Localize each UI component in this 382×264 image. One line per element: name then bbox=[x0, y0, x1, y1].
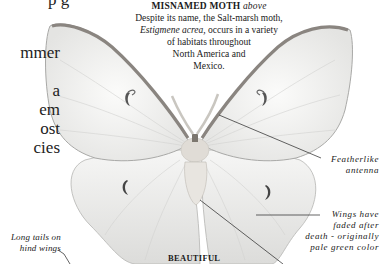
beautiful-heading: BEAUTIFUL bbox=[168, 253, 220, 263]
misnamed-moth-caption: MISNAMED MOTH above Despite its name, th… bbox=[124, 0, 294, 72]
caption-line: North America and bbox=[124, 48, 294, 60]
body-text-line: em bbox=[39, 100, 60, 119]
caption-line: Mexico. bbox=[124, 60, 294, 72]
body-text-line: a bbox=[52, 81, 60, 100]
left-hind-wing bbox=[71, 150, 200, 264]
book-page: p g mmer a em ost cies MISNAMED MOTH abo… bbox=[0, 0, 382, 264]
caption-title: MISNAMED MOTH above bbox=[124, 0, 294, 12]
body-text-top-fragment: p g bbox=[48, 0, 69, 10]
body-text-line: ost bbox=[40, 119, 60, 138]
wings-faded-label: Wings have faded after death - originall… bbox=[305, 209, 379, 253]
body-text-line: mmer bbox=[20, 43, 60, 62]
caption-line: Despite its name, the Salt-marsh moth, bbox=[124, 12, 294, 24]
caption-line: of habitats throughout bbox=[124, 36, 294, 48]
tails-label: Long tails on hind wings bbox=[6, 232, 61, 254]
body-text-line: cies bbox=[34, 138, 60, 157]
antenna-label: Featherlike antenna bbox=[331, 154, 379, 176]
right-hind-wing bbox=[202, 150, 316, 264]
caption-line: Estigmene acrea, occurs in a variety bbox=[124, 24, 294, 36]
